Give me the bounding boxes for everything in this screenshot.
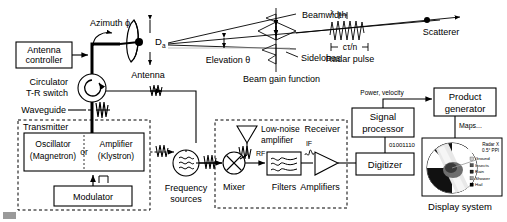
ppi-legend-label-1: Insects: [475, 163, 490, 168]
antenna-controller-label-line1: Antenna: [27, 45, 61, 55]
oscillator-label-line1: Oscillator: [35, 139, 71, 149]
antenna-controller-label-line2: controller: [25, 55, 62, 65]
pulse-length-label: cτ/n: [343, 42, 358, 52]
product-generator-label-line1: Product: [449, 91, 482, 102]
ppi-legend-label-3: Shower: [475, 176, 490, 181]
elevation-label: Elevation θ: [206, 55, 251, 65]
mixer-label: Mixer: [223, 182, 245, 192]
ppi-legend-swatch-3: [470, 177, 473, 180]
radar-block-diagram: Antenna controller Azimuth ϕ Antenna D a…: [0, 0, 507, 222]
oscillator-label-line2: (Magnetron): [30, 151, 76, 161]
product-generator-label-line2: generator: [445, 103, 486, 114]
filters-label: Filters: [272, 182, 297, 192]
rf-label: RF: [256, 150, 265, 157]
signal-processor-label-line1: Signal: [370, 111, 396, 122]
frequency-sources-label-line1: Frequency: [165, 183, 208, 193]
if-label: IF: [306, 140, 312, 147]
ppi-legend-label-4: Hail: [475, 182, 483, 187]
ppi-legend-label-2: Rain: [475, 169, 485, 174]
circulator-label-line2: T-R switch: [26, 88, 68, 98]
azimuth-label: Azimuth ϕ: [90, 18, 130, 28]
transmitter-box-label: Transmitter: [23, 122, 68, 132]
ppi-legend-swatch-0: [470, 157, 473, 160]
circulator-label-line1: Circulator: [29, 77, 68, 87]
scatterer-label: Scatterer: [423, 27, 460, 37]
ppi-radar-label: Radar X: [482, 142, 499, 147]
scatterer-point: [424, 17, 430, 23]
product-generator-block: Product generator: [434, 88, 496, 116]
power-velocity-label: Power, velocity: [360, 89, 404, 97]
maps-label: Maps...: [459, 122, 482, 130]
radar-pulse-label: Radar pulse: [326, 54, 375, 64]
page-artifact: [3, 212, 16, 219]
amplifier-label-line2: (Klystron): [98, 151, 135, 161]
display-system-label: Display system: [428, 201, 492, 212]
signal-processor-block: Signal processor: [352, 108, 414, 137]
antenna-controller-block: Antenna controller: [16, 42, 72, 68]
antenna-label: Antenna: [131, 70, 165, 80]
ppi-elevation-label: 0.5° PPI: [482, 148, 499, 153]
lna-label-line2: amplifier: [261, 135, 293, 145]
lna-label-line1: Low-noise: [261, 124, 300, 134]
modulator-label: Modulator: [73, 192, 113, 202]
ppi-legend-swatch-4: [470, 183, 473, 186]
antenna-diameter-label: D: [155, 36, 162, 47]
frequency-sources-label-line2: sources: [170, 194, 202, 204]
digitizer-block: Digitizer: [356, 153, 414, 175]
ppi-legend-label-0: Ground: [475, 156, 490, 161]
digitizer-label: Digitizer: [368, 159, 402, 170]
antenna-diameter-subscript: a: [162, 42, 166, 49]
amplifier-label-line1: Amplifier: [99, 139, 132, 149]
signal-processor-label-line2: processor: [362, 123, 404, 134]
waveguide-label: Waveguide: [21, 105, 66, 115]
wavelength-label: λ: [330, 8, 334, 17]
amplifiers-label: Amplifiers: [300, 182, 340, 192]
bitstream-label: 01001110: [389, 142, 415, 148]
receiver-box-label: Receiver: [304, 124, 340, 134]
display-system: Radar X 0.5° PPI Ground Insects Rain Sho…: [422, 138, 502, 212]
beam-gain-function-label: Beam gain function: [243, 74, 320, 84]
ppi-legend-swatch-1: [470, 164, 473, 167]
ppi-legend-swatch-2: [470, 170, 473, 173]
